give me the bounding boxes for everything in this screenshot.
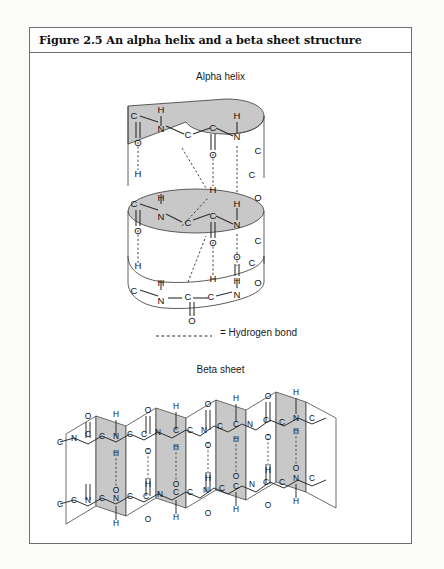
svg-text:H: H bbox=[135, 260, 142, 271]
svg-text:C: C bbox=[217, 421, 223, 431]
svg-text:H: H bbox=[293, 426, 299, 436]
svg-text:C: C bbox=[127, 491, 133, 501]
svg-text:H: H bbox=[234, 275, 241, 286]
svg-text:C: C bbox=[263, 477, 269, 487]
svg-text:C: C bbox=[208, 291, 215, 302]
svg-text:O: O bbox=[205, 399, 212, 409]
svg-text:C: C bbox=[187, 425, 193, 435]
svg-text:C: C bbox=[279, 477, 285, 487]
svg-text:O: O bbox=[205, 508, 212, 518]
svg-text:O: O bbox=[145, 405, 152, 415]
svg-text:O: O bbox=[145, 514, 152, 524]
svg-text:N: N bbox=[155, 427, 161, 437]
svg-text:N: N bbox=[71, 433, 77, 443]
svg-text:N: N bbox=[158, 123, 165, 134]
svg-text:H: H bbox=[145, 479, 151, 489]
alpha-helix-diagram: .hl { stroke:#4a4a4a; stroke-width:0.9; … bbox=[30, 86, 413, 336]
svg-text:O: O bbox=[233, 251, 240, 262]
svg-text:N: N bbox=[249, 479, 255, 489]
svg-text:H: H bbox=[233, 434, 239, 444]
svg-text:N: N bbox=[293, 413, 299, 423]
svg-text:N: N bbox=[234, 289, 241, 300]
svg-text:H: H bbox=[173, 401, 179, 411]
svg-text:O: O bbox=[293, 463, 300, 473]
svg-text:C: C bbox=[173, 425, 179, 435]
svg-text:C: C bbox=[127, 429, 133, 439]
svg-text:H: H bbox=[210, 273, 217, 284]
svg-text:C: C bbox=[57, 499, 63, 509]
svg-text:H: H bbox=[233, 393, 239, 403]
svg-text:C: C bbox=[99, 493, 105, 503]
svg-text:H: H bbox=[113, 409, 119, 419]
svg-text:H: H bbox=[158, 104, 165, 115]
svg-text:C: C bbox=[255, 145, 262, 156]
svg-text:N: N bbox=[247, 419, 253, 429]
svg-text:N: N bbox=[85, 495, 91, 505]
svg-text:O: O bbox=[265, 391, 272, 401]
svg-text:O: O bbox=[205, 440, 212, 450]
svg-text:H: H bbox=[210, 184, 217, 195]
svg-text:H: H bbox=[293, 496, 299, 506]
svg-text:C: C bbox=[210, 210, 217, 221]
svg-text:N: N bbox=[113, 493, 119, 503]
svg-text:C: C bbox=[219, 483, 225, 493]
hydrogen-bond-legend-label: = Hydrogen bond bbox=[220, 327, 297, 338]
svg-text:N: N bbox=[158, 211, 165, 222]
svg-text:N: N bbox=[234, 131, 241, 142]
svg-text:H: H bbox=[205, 473, 211, 483]
svg-text:N: N bbox=[203, 485, 209, 495]
svg-text:C: C bbox=[131, 198, 138, 209]
beta-sheet-label: Beta sheet bbox=[30, 364, 411, 375]
svg-text:O: O bbox=[265, 500, 272, 510]
svg-text:C: C bbox=[279, 417, 285, 427]
svg-text:C: C bbox=[57, 437, 63, 447]
svg-text:C: C bbox=[71, 495, 77, 505]
helix-atom-labels-turn-3: C H N C C H N O O bbox=[131, 251, 241, 326]
svg-text:H: H bbox=[293, 388, 299, 397]
svg-text:C: C bbox=[141, 429, 147, 439]
svg-text:C: C bbox=[249, 257, 256, 268]
helix-turn-2 bbox=[128, 189, 264, 233]
helix-turn-3 bbox=[128, 256, 264, 309]
svg-text:N: N bbox=[234, 219, 241, 230]
page-title: Figure 2.5 An alpha helix and a beta she… bbox=[39, 33, 362, 47]
helix-backbone-turn-3 bbox=[140, 264, 239, 316]
svg-text:O: O bbox=[254, 192, 261, 203]
svg-text:O: O bbox=[209, 149, 216, 160]
svg-text:C: C bbox=[263, 415, 269, 425]
svg-text:C: C bbox=[131, 285, 138, 296]
svg-text:C: C bbox=[185, 129, 192, 140]
svg-text:N: N bbox=[158, 295, 165, 306]
svg-text:H: H bbox=[135, 168, 142, 179]
svg-text:O: O bbox=[209, 237, 216, 248]
svg-text:N: N bbox=[157, 489, 163, 499]
figure-container: Figure 2.5 An alpha helix and a beta she… bbox=[29, 27, 412, 544]
svg-text:H: H bbox=[234, 110, 241, 121]
svg-text:C: C bbox=[249, 169, 256, 180]
svg-text:H: H bbox=[234, 198, 241, 209]
svg-text:N: N bbox=[201, 425, 207, 435]
svg-text:C: C bbox=[185, 217, 192, 228]
svg-text:C: C bbox=[99, 431, 105, 441]
svg-text:C: C bbox=[173, 487, 179, 497]
svg-text:H: H bbox=[265, 465, 271, 475]
svg-text:C: C bbox=[187, 487, 193, 497]
svg-text:C: C bbox=[85, 429, 91, 439]
svg-text:H: H bbox=[113, 518, 119, 528]
svg-text:O: O bbox=[85, 411, 92, 421]
svg-text:C: C bbox=[185, 291, 192, 302]
svg-text:O: O bbox=[233, 471, 240, 481]
page-background: Figure 2.5 An alpha helix and a beta she… bbox=[0, 0, 444, 569]
svg-text:N: N bbox=[113, 431, 119, 441]
svg-text:O: O bbox=[188, 315, 195, 326]
svg-text:H: H bbox=[173, 442, 179, 452]
svg-text:C: C bbox=[131, 110, 138, 121]
svg-text:H: H bbox=[233, 504, 239, 514]
hydrogen-bond-legend-line bbox=[156, 331, 216, 341]
svg-text:C: C bbox=[233, 419, 239, 429]
svg-text:O: O bbox=[265, 432, 272, 442]
helix-turn-1 bbox=[128, 99, 264, 144]
svg-text:C: C bbox=[210, 122, 217, 133]
svg-text:C: C bbox=[233, 481, 239, 491]
alpha-helix-label: Alpha helix bbox=[30, 71, 411, 82]
